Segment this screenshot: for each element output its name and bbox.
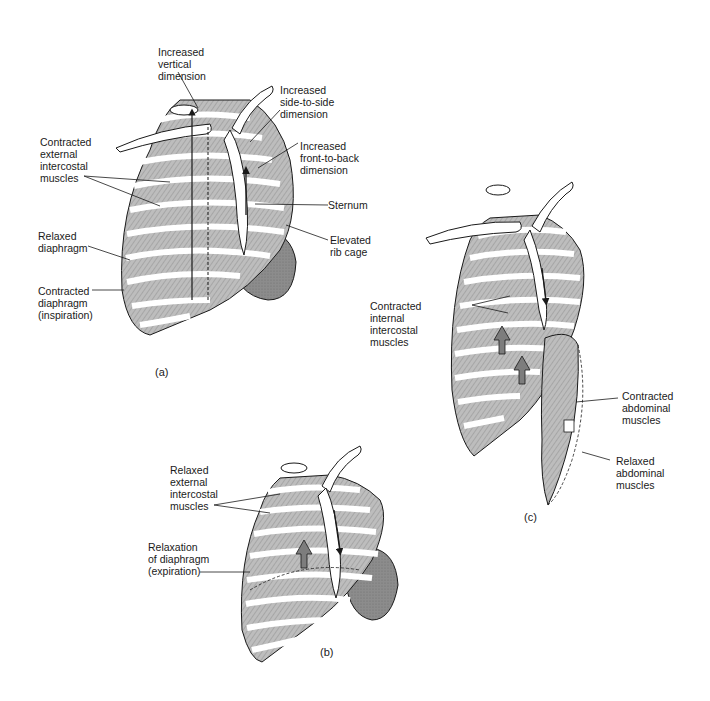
panel-c-rib-cage: [426, 182, 618, 505]
label-increased-front-to-back-dimension: Increased front-to-back dimension: [300, 140, 359, 176]
label-contracted-abdominal-muscles: Contracted abdominal muscles: [622, 390, 673, 426]
breathing-mechanics-figure: Increased vertical dimension Increased s…: [0, 0, 710, 701]
label-contracted-internal-intercostal: Contracted internal intercostal muscles: [370, 300, 421, 348]
label-contracted-external-intercostal: Contracted external intercostal muscles: [40, 136, 91, 184]
panel-a-caption: (a): [155, 366, 168, 378]
panel-b-rib-cage: [200, 446, 398, 662]
label-elevated-rib-cage: Elevated rib cage: [330, 234, 371, 258]
label-relaxed-external-intercostal: Relaxed external intercostal muscles: [170, 464, 218, 512]
label-relaxed-diaphragm: Relaxed diaphragm: [38, 230, 88, 254]
rib-cage-illustrations: [0, 0, 710, 701]
label-contracted-diaphragm: Contracted diaphragm (inspiration): [38, 285, 93, 321]
label-sternum: Sternum: [328, 199, 368, 211]
label-relaxation-of-diaphragm: Relaxation of diaphragm (expiration): [148, 541, 209, 577]
panel-b-caption: (b): [320, 646, 333, 658]
panel-c-caption: (c): [524, 511, 537, 523]
label-increased-side-to-side-dimension: Increased side-to-side dimension: [280, 84, 334, 120]
label-increased-vertical-dimension: Increased vertical dimension: [158, 46, 206, 82]
label-relaxed-abdominal-muscles: Relaxed abdominal muscles: [616, 455, 664, 491]
